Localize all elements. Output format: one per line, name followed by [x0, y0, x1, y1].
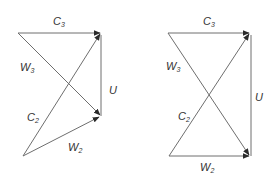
label-c3: C3 [203, 15, 215, 28]
velocity-triangle-right: C3 W3 U C2 W2 [166, 15, 263, 174]
label-w3: W3 [166, 60, 180, 73]
label-c3: C3 [53, 15, 65, 28]
vector-c2 [23, 34, 100, 156]
label-w2: W2 [68, 141, 82, 154]
vector-w3 [168, 33, 249, 155]
label-c2: C2 [27, 111, 39, 124]
label-w2: W2 [200, 161, 214, 174]
velocity-diagrams: C3 W3 U C2 W2 C3 W3 U C2 W2 [0, 0, 277, 181]
vector-w3 [18, 33, 100, 115]
label-c2: C2 [178, 110, 190, 123]
label-u: U [109, 84, 117, 96]
label-u: U [255, 91, 263, 103]
label-w3: W3 [20, 61, 34, 74]
velocity-triangle-left: C3 W3 U C2 W2 [18, 15, 117, 156]
